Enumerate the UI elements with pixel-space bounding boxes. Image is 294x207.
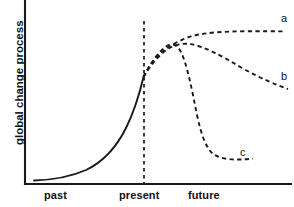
series-historical-curve [34,77,144,181]
series-a-curve [144,31,286,77]
chart-plot-area [0,0,294,207]
x-tick-label-present: present [119,190,159,201]
chart-figure: global change process past present futur… [0,0,294,207]
series-b-curve [144,44,289,89]
series-label-c: c [240,147,246,158]
y-axis-label: global change process [14,3,26,163]
series-label-a: a [281,13,287,24]
x-tick-label-past: past [44,190,67,201]
series-c-curve [144,44,254,159]
series-label-b: b [281,71,287,82]
x-tick-label-future: future [188,190,220,201]
